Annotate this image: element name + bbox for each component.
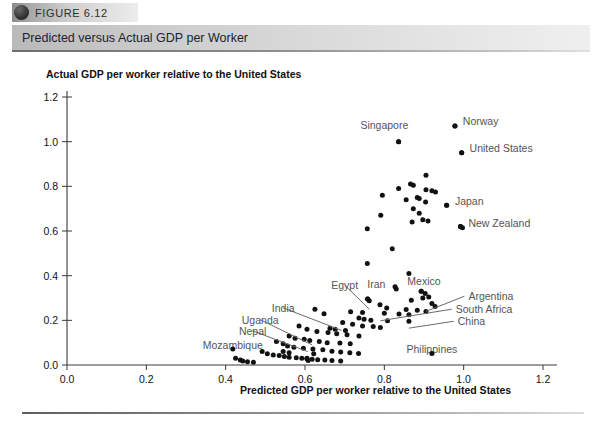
data-point xyxy=(304,327,309,332)
data-point xyxy=(334,331,339,336)
data-point xyxy=(312,307,317,312)
data-point xyxy=(429,351,434,356)
y-axis-tick-label: 0.8 xyxy=(43,180,58,192)
data-point xyxy=(348,341,353,346)
annotation-leader-line xyxy=(409,321,454,328)
data-point xyxy=(356,333,361,338)
figure-bullet-icon xyxy=(14,5,29,20)
data-point xyxy=(329,358,334,363)
data-point xyxy=(245,359,250,364)
data-point xyxy=(310,346,315,351)
data-point xyxy=(368,318,373,323)
y-axis-tick-label: 0.2 xyxy=(43,314,58,326)
data-point xyxy=(348,309,353,314)
data-point xyxy=(458,224,463,229)
figure-title: Predicted versus Actual GDP per Worker xyxy=(22,31,248,45)
annotation-label: New Zealand xyxy=(468,217,530,229)
data-point xyxy=(350,322,355,327)
data-point xyxy=(317,339,322,344)
data-point xyxy=(325,340,330,345)
data-point xyxy=(281,349,286,354)
data-point xyxy=(265,351,270,356)
data-point xyxy=(362,317,367,322)
data-point xyxy=(415,308,420,313)
footer-divider xyxy=(22,412,584,414)
data-point xyxy=(360,310,365,315)
annotation-label: Argentina xyxy=(468,290,513,302)
data-point xyxy=(365,297,370,302)
data-point xyxy=(251,360,256,365)
x-axis-tick-label: 0.6 xyxy=(298,373,313,385)
annotation-label: United States xyxy=(470,142,533,154)
data-point xyxy=(326,330,331,335)
data-point xyxy=(378,325,383,330)
data-point xyxy=(322,358,327,363)
data-point xyxy=(377,302,382,307)
data-point xyxy=(423,173,428,178)
figure-title-band: Predicted versus Actual GDP per Worker xyxy=(12,25,590,50)
annotation-label: South Africa xyxy=(456,303,513,315)
data-point xyxy=(444,203,449,208)
data-point xyxy=(396,186,401,191)
data-point xyxy=(347,350,352,355)
data-point xyxy=(378,213,383,218)
data-point xyxy=(426,294,431,299)
data-point xyxy=(423,187,428,192)
annotation-label: Norway xyxy=(463,115,499,127)
y-axis-tick-label: 1.2 xyxy=(43,91,58,103)
data-point xyxy=(271,352,276,357)
data-point xyxy=(394,287,399,292)
data-point xyxy=(371,324,376,329)
y-axis-tick-label: 0.4 xyxy=(43,270,58,282)
plot-area: 0.00.20.40.60.81.01.20.00.20.40.60.81.01… xyxy=(0,55,602,395)
data-point xyxy=(345,332,350,337)
data-point xyxy=(343,328,348,333)
annotation-label: Japan xyxy=(455,195,484,207)
data-point xyxy=(307,338,312,343)
data-point xyxy=(419,289,424,294)
data-point xyxy=(340,320,345,325)
x-axis-tick-label: 0.2 xyxy=(139,373,154,385)
data-point xyxy=(337,341,342,346)
data-point xyxy=(338,358,343,363)
data-point xyxy=(314,329,319,334)
data-point xyxy=(452,124,457,129)
data-point xyxy=(397,312,402,317)
y-axis-tick-label: 0.6 xyxy=(43,225,58,237)
data-point xyxy=(240,358,245,363)
data-point xyxy=(417,196,422,201)
data-point xyxy=(356,351,361,356)
data-point xyxy=(322,311,327,316)
data-point xyxy=(287,355,292,360)
x-axis-tick-label: 0.4 xyxy=(218,373,233,385)
annotation-label: Mexico xyxy=(407,275,440,287)
y-axis-tick-label: 1.0 xyxy=(43,136,58,148)
data-point xyxy=(297,323,302,328)
data-point xyxy=(365,226,370,231)
data-point xyxy=(382,311,387,316)
data-point xyxy=(380,193,385,198)
data-point xyxy=(306,358,311,363)
x-axis-tick-label: 1.0 xyxy=(456,373,471,385)
data-point xyxy=(396,139,401,144)
data-point xyxy=(420,217,425,222)
data-point xyxy=(420,296,425,301)
annotation-label: Iran xyxy=(367,278,385,290)
annotation-label: China xyxy=(458,315,486,327)
data-point xyxy=(390,246,395,251)
data-point xyxy=(423,199,428,204)
data-point xyxy=(311,351,316,356)
annotation-label: Egypt xyxy=(331,279,358,291)
x-axis-tick-label: 0.0 xyxy=(60,373,75,385)
data-point xyxy=(315,357,320,362)
data-point xyxy=(409,298,414,303)
data-point xyxy=(404,197,409,202)
data-point xyxy=(417,211,422,216)
data-point xyxy=(384,306,389,311)
data-point xyxy=(282,354,287,359)
figure-number-label: FIGURE 6.12 xyxy=(35,7,108,19)
data-point xyxy=(425,218,430,223)
data-point xyxy=(320,347,325,352)
annotation-label: India xyxy=(272,302,295,314)
scatter-chart: Actual GDP per worker relative to the Un… xyxy=(0,55,602,395)
